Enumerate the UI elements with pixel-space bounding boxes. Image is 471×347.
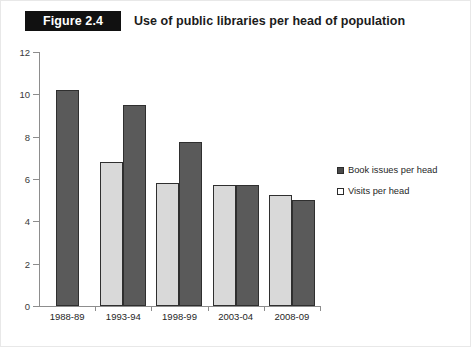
figure-header: Figure 2.4 Use of public libraries per h… — [1, 1, 471, 43]
x-axis-tick — [95, 306, 96, 311]
x-axis-tick — [264, 306, 265, 311]
legend-item: Visits per head — [337, 186, 469, 196]
x-axis-tick — [151, 306, 152, 311]
bar-group — [39, 52, 95, 306]
x-axis-line — [39, 306, 320, 307]
bar-book-issues-per-head — [123, 105, 146, 306]
legend-swatch-icon — [337, 188, 344, 195]
y-axis-label: 6 — [25, 174, 30, 185]
bar-visits-per-head — [100, 162, 123, 306]
bar-group — [264, 52, 320, 306]
y-axis-label: 10 — [19, 89, 30, 100]
chart-legend: Book issues per headVisits per head — [337, 165, 469, 207]
legend-swatch-icon — [337, 167, 344, 174]
y-axis-label: 4 — [25, 216, 30, 227]
bar-visits-per-head — [269, 195, 292, 306]
figure-number-badge: Figure 2.4 — [25, 11, 121, 31]
bar-visits-per-head — [156, 183, 179, 306]
x-axis-category-label: 1998-99 — [162, 311, 197, 322]
x-axis-category-label: 2003-04 — [218, 311, 253, 322]
y-axis-tick — [33, 306, 39, 307]
x-axis-tick — [320, 306, 321, 311]
y-axis-label: 12 — [19, 47, 30, 58]
bar-group — [208, 52, 264, 306]
bar-book-issues-per-head — [56, 90, 79, 306]
bar-group — [95, 52, 151, 306]
legend-label: Book issues per head — [348, 165, 437, 175]
x-axis-tick — [208, 306, 209, 311]
x-axis-category-label: 1993-94 — [106, 311, 141, 322]
bar-group — [151, 52, 207, 306]
bar-book-issues-per-head — [179, 142, 202, 306]
x-axis-category-label: 2008-09 — [274, 311, 309, 322]
y-axis-label: 0 — [25, 301, 30, 312]
legend-item: Book issues per head — [337, 165, 469, 175]
legend-label: Visits per head — [348, 186, 409, 196]
bar-book-issues-per-head — [292, 200, 315, 306]
bar-visits-per-head — [213, 185, 236, 306]
chart-plot-area: 024681012 1988-891993-941998-992003-0420… — [39, 52, 320, 306]
figure-title: Use of public libraries per head of popu… — [134, 12, 405, 30]
x-axis-category-label: 1988-89 — [50, 311, 85, 322]
bar-book-issues-per-head — [236, 185, 259, 306]
y-axis-label: 8 — [25, 131, 30, 142]
figure-panel: Figure 2.4 Use of public libraries per h… — [0, 0, 471, 347]
y-axis-label: 2 — [25, 258, 30, 269]
